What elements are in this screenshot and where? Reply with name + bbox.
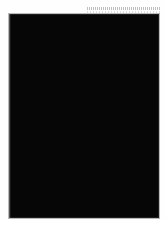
figure-caption [8, 221, 160, 229]
figure-frame [8, 13, 160, 219]
scanned-figure-page [0, 0, 166, 230]
protein-space-filling-model-image [9, 14, 159, 218]
dotted-scan-line-icon [87, 7, 160, 10]
